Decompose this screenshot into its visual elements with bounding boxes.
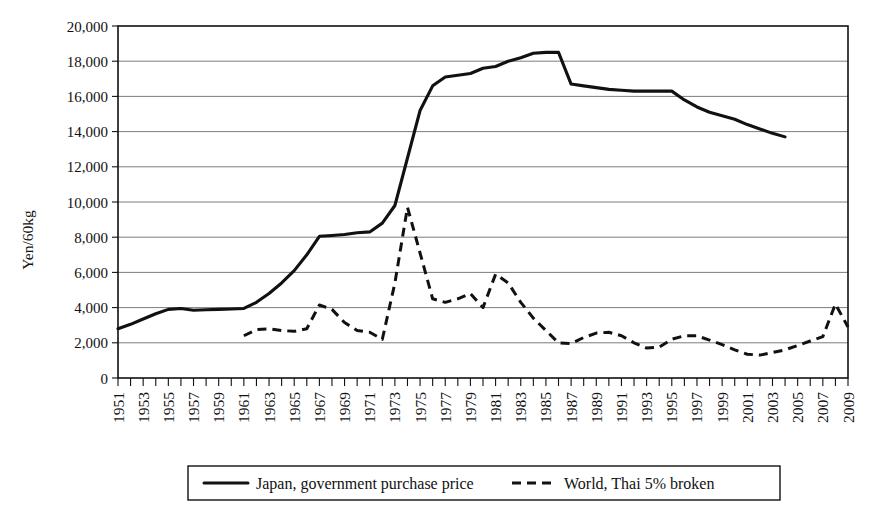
legend-label-2: World, Thai 5% broken <box>564 475 714 492</box>
x-tick-label: 1969 <box>336 392 353 423</box>
chart-legend: Japan, government purchase priceWorld, T… <box>188 466 780 500</box>
y-tick-label: 10,000 <box>67 195 108 211</box>
x-tick-label: 1961 <box>235 392 252 423</box>
y-axis-title: Yen/60kg <box>19 210 36 270</box>
y-axis-title-label: Yen/60kg <box>19 210 36 270</box>
x-tick-label: 1985 <box>537 392 554 423</box>
x-tick-label: 1999 <box>714 392 731 423</box>
x-tick-label: 2001 <box>739 392 756 423</box>
y-tick-label: 16,000 <box>67 89 108 105</box>
x-tick-label: 1963 <box>261 392 278 423</box>
x-tick-label: 1981 <box>487 392 504 423</box>
x-tick-label: 2003 <box>764 392 781 423</box>
x-tick-label: 1979 <box>462 392 479 423</box>
y-tick-label: 2,000 <box>74 335 108 351</box>
x-tick-label: 1973 <box>386 392 403 423</box>
x-tick-label: 1989 <box>588 392 605 423</box>
x-tick-label: 1959 <box>210 392 227 423</box>
grid-lines <box>118 61 848 343</box>
x-tick-label: 1983 <box>512 392 529 423</box>
x-tick-label: 2007 <box>814 392 831 423</box>
x-tick-label: 1971 <box>361 392 378 423</box>
x-axis-ticks <box>118 378 848 386</box>
x-tick-label: 1955 <box>160 392 177 423</box>
x-tick-label: 1967 <box>311 392 328 423</box>
x-tick-label: 1993 <box>638 392 655 423</box>
x-tick-label: 1997 <box>688 392 705 423</box>
x-tick-label: 1975 <box>412 392 429 423</box>
series-line-1 <box>118 52 785 328</box>
y-tick-label: 20,000 <box>67 19 108 35</box>
x-tick-label: 2009 <box>840 392 857 423</box>
x-tick-label: 1995 <box>663 392 680 423</box>
series-line-2 <box>244 207 848 355</box>
y-axis-tick-labels: 02,0004,0006,0008,00010,00012,00014,0001… <box>67 19 118 387</box>
x-tick-label: 1953 <box>135 392 152 423</box>
chart-figure: 02,0004,0006,0008,00010,00012,00014,0001… <box>0 0 871 512</box>
x-tick-label: 2005 <box>789 392 806 423</box>
x-axis-tick-labels: 1951195319551957195919611963196519671969… <box>110 392 857 423</box>
x-tick-label: 1957 <box>185 392 202 423</box>
y-tick-label: 4,000 <box>74 300 108 316</box>
y-tick-label: 14,000 <box>67 124 108 140</box>
y-tick-label: 6,000 <box>74 265 108 281</box>
data-series <box>118 52 848 355</box>
y-tick-label: 8,000 <box>74 230 108 246</box>
y-tick-label: 0 <box>101 371 109 387</box>
y-tick-label: 12,000 <box>67 159 108 175</box>
legend-label-1: Japan, government purchase price <box>256 475 474 493</box>
x-tick-label: 1965 <box>286 392 303 423</box>
x-tick-label: 1951 <box>110 392 127 423</box>
x-tick-label: 1991 <box>613 392 630 423</box>
x-tick-label: 1987 <box>563 392 580 423</box>
y-tick-label: 18,000 <box>67 54 108 70</box>
line-chart: 02,0004,0006,0008,00010,00012,00014,0001… <box>0 0 871 512</box>
x-tick-label: 1977 <box>437 392 454 423</box>
